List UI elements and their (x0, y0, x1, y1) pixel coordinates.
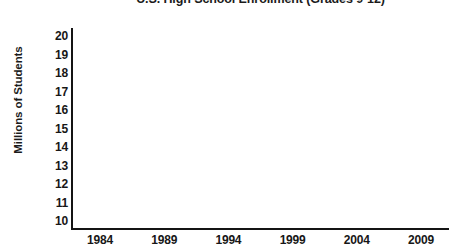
x-tick-label: 2004 (334, 234, 380, 246)
chart-title: U.S. High School Enrollment (Grades 9-12… (72, 0, 449, 6)
y-tick-label: 19 (34, 49, 68, 61)
y-tick-label: 14 (34, 141, 68, 153)
y-tick-label: 16 (34, 104, 68, 116)
x-tick-label: 1999 (270, 234, 316, 246)
x-tick-label: 1984 (77, 234, 123, 246)
y-tick-label: 11 (34, 197, 68, 209)
y-tick-label: 12 (34, 178, 68, 190)
x-tick-label: 2009 (398, 234, 444, 246)
plot-area (73, 28, 449, 228)
y-tick-label: 20 (34, 30, 68, 42)
y-axis-title: Millions of Students (12, 10, 24, 190)
y-tick-label: 17 (34, 86, 68, 98)
y-axis-line (71, 28, 73, 230)
y-tick-label: 13 (34, 160, 68, 172)
y-tick-label: 10 (34, 215, 68, 227)
x-tick-label: 1989 (141, 234, 187, 246)
x-axis-line (71, 228, 449, 230)
y-tick-label: 15 (34, 123, 68, 135)
chart-figure: U.S. High School Enrollment (Grades 9-12… (0, 0, 449, 252)
x-tick-label: 1994 (205, 234, 251, 246)
y-tick-label: 18 (34, 67, 68, 79)
